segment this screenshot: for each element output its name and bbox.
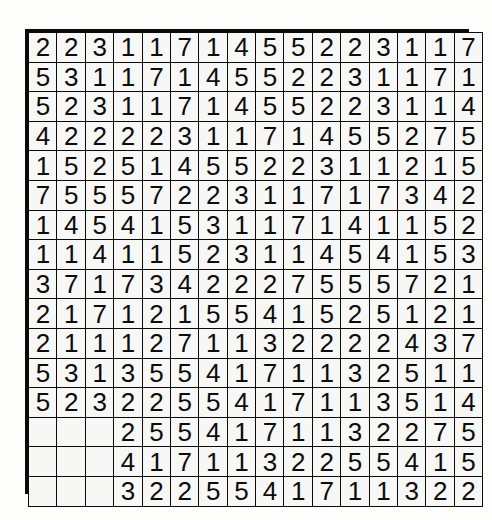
- grid-cell-empty[interactable]: [29, 476, 57, 506]
- grid-cell[interactable]: 3: [57, 62, 85, 92]
- grid-cell[interactable]: 2: [341, 328, 369, 358]
- grid-cell[interactable]: 1: [199, 92, 227, 122]
- grid-cell[interactable]: 7: [284, 269, 312, 299]
- grid-cell[interactable]: 3: [369, 92, 397, 122]
- grid-cell[interactable]: 5: [454, 121, 482, 151]
- grid-cell[interactable]: 4: [29, 121, 57, 151]
- grid-cell[interactable]: 3: [256, 328, 284, 358]
- grid-cell[interactable]: 2: [57, 92, 85, 122]
- grid-cell[interactable]: 3: [85, 33, 113, 63]
- grid-cell[interactable]: 2: [170, 180, 198, 210]
- grid-cell[interactable]: 1: [312, 388, 340, 418]
- grid-cell[interactable]: 4: [199, 358, 227, 388]
- grid-cell[interactable]: 2: [454, 210, 482, 240]
- grid-cell[interactable]: 1: [85, 62, 113, 92]
- grid-cell[interactable]: 3: [29, 269, 57, 299]
- grid-cell[interactable]: 2: [227, 269, 255, 299]
- grid-cell[interactable]: 5: [199, 299, 227, 329]
- grid-cell[interactable]: 1: [142, 92, 170, 122]
- grid-cell[interactable]: 3: [199, 210, 227, 240]
- grid-cell[interactable]: 1: [114, 328, 142, 358]
- grid-cell[interactable]: 4: [256, 299, 284, 329]
- grid-cell[interactable]: 1: [114, 62, 142, 92]
- grid-cell[interactable]: 2: [29, 33, 57, 63]
- grid-cell[interactable]: 2: [29, 328, 57, 358]
- grid-cell[interactable]: 2: [114, 388, 142, 418]
- grid-cell[interactable]: 1: [284, 180, 312, 210]
- grid-cell[interactable]: 2: [29, 299, 57, 329]
- grid-cell-empty[interactable]: [57, 476, 85, 506]
- grid-cell[interactable]: 1: [57, 240, 85, 270]
- grid-cell[interactable]: 7: [170, 92, 198, 122]
- grid-cell[interactable]: 2: [397, 417, 425, 447]
- grid-cell[interactable]: 1: [57, 328, 85, 358]
- grid-cell[interactable]: 4: [341, 210, 369, 240]
- grid-cell[interactable]: 5: [227, 476, 255, 506]
- grid-cell[interactable]: 1: [397, 240, 425, 270]
- grid-cell[interactable]: 2: [256, 269, 284, 299]
- grid-cell[interactable]: 5: [170, 388, 198, 418]
- grid-cell[interactable]: 1: [256, 180, 284, 210]
- grid-cell[interactable]: 5: [57, 180, 85, 210]
- grid-cell[interactable]: 4: [454, 388, 482, 418]
- grid-cell[interactable]: 3: [369, 33, 397, 63]
- grid-cell[interactable]: 7: [170, 447, 198, 477]
- grid-cell[interactable]: 2: [312, 62, 340, 92]
- grid-cell[interactable]: 1: [312, 417, 340, 447]
- grid-cell[interactable]: 1: [199, 447, 227, 477]
- grid-cell[interactable]: 1: [227, 417, 255, 447]
- grid-cell[interactable]: 1: [369, 151, 397, 181]
- grid-cell-empty[interactable]: [85, 476, 113, 506]
- grid-cell[interactable]: 1: [341, 476, 369, 506]
- grid-cell[interactable]: 3: [397, 476, 425, 506]
- grid-cell[interactable]: 2: [142, 299, 170, 329]
- grid-cell[interactable]: 4: [369, 240, 397, 270]
- grid-cell[interactable]: 1: [142, 210, 170, 240]
- grid-cell[interactable]: 5: [199, 151, 227, 181]
- grid-cell[interactable]: 2: [142, 121, 170, 151]
- grid-cell[interactable]: 5: [256, 92, 284, 122]
- grid-cell[interactable]: 2: [170, 476, 198, 506]
- grid-cell[interactable]: 2: [199, 180, 227, 210]
- grid-cell[interactable]: 2: [142, 476, 170, 506]
- grid-cell[interactable]: 7: [114, 269, 142, 299]
- grid-cell[interactable]: 3: [341, 62, 369, 92]
- grid-cell[interactable]: 7: [256, 417, 284, 447]
- grid-cell[interactable]: 1: [397, 62, 425, 92]
- grid-cell[interactable]: 2: [284, 447, 312, 477]
- grid-cell[interactable]: 1: [199, 328, 227, 358]
- grid-cell[interactable]: 2: [341, 33, 369, 63]
- grid-cell[interactable]: 2: [85, 151, 113, 181]
- grid-cell-empty[interactable]: [57, 417, 85, 447]
- grid-cell[interactable]: 1: [170, 299, 198, 329]
- grid-cell[interactable]: 3: [426, 328, 454, 358]
- grid-cell[interactable]: 7: [142, 180, 170, 210]
- grid-cell[interactable]: 5: [397, 358, 425, 388]
- grid-cell[interactable]: 2: [57, 33, 85, 63]
- grid-cell[interactable]: 1: [426, 358, 454, 388]
- grid-cell[interactable]: 5: [199, 476, 227, 506]
- grid-cell[interactable]: 1: [454, 299, 482, 329]
- grid-cell[interactable]: 1: [114, 33, 142, 63]
- grid-cell[interactable]: 5: [170, 417, 198, 447]
- grid-cell[interactable]: 7: [426, 417, 454, 447]
- grid-cell[interactable]: 1: [114, 92, 142, 122]
- grid-cell[interactable]: 1: [397, 210, 425, 240]
- grid-cell[interactable]: 2: [85, 121, 113, 151]
- grid-cell[interactable]: 1: [426, 33, 454, 63]
- grid-cell[interactable]: 7: [170, 33, 198, 63]
- grid-cell[interactable]: 5: [85, 180, 113, 210]
- grid-cell[interactable]: 2: [114, 121, 142, 151]
- grid-cell[interactable]: 4: [426, 180, 454, 210]
- grid-cell[interactable]: 1: [199, 33, 227, 63]
- grid-cell[interactable]: 2: [341, 299, 369, 329]
- grid-cell-empty[interactable]: [57, 447, 85, 477]
- grid-cell[interactable]: 4: [397, 328, 425, 358]
- grid-cell[interactable]: 2: [454, 476, 482, 506]
- grid-cell[interactable]: 5: [114, 151, 142, 181]
- grid-cell[interactable]: 3: [85, 92, 113, 122]
- grid-cell[interactable]: 2: [57, 121, 85, 151]
- grid-cell[interactable]: 1: [284, 240, 312, 270]
- grid-cell[interactable]: 5: [454, 417, 482, 447]
- grid-cell[interactable]: 1: [85, 269, 113, 299]
